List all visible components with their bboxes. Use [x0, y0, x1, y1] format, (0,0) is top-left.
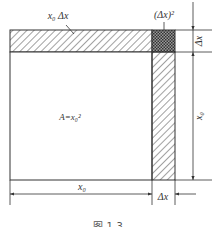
square-growth-diagram: x₀ Δx (Δx)² A=x₀² Δx x₀ x₀ Δx 图 1-3 [0, 0, 216, 227]
label-right-dim-x0: x₀ [193, 112, 204, 121]
right-strip-x0-dx [152, 52, 175, 180]
label-top-strip: x₀ Δx [47, 10, 69, 21]
label-bottom-dim-x0: x₀ [77, 181, 86, 192]
label-corner-square: (Δx)² [154, 9, 175, 21]
top-strip-x0-dx [10, 30, 152, 52]
corner-square-dx-squared [152, 30, 175, 52]
figure-caption: 图 1-3 [93, 221, 123, 227]
label-right-dim-dx: Δx [193, 35, 204, 47]
main-square-area [10, 52, 152, 180]
label-main-area: A=x₀² [58, 112, 81, 122]
label-bottom-dim-dx: Δx [157, 191, 169, 202]
